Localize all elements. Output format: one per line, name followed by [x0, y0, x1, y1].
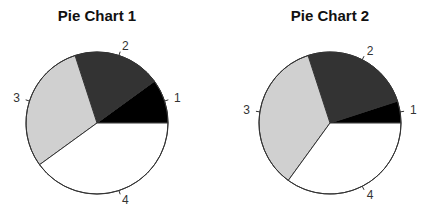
slice-label: 1: [410, 103, 417, 117]
pie-plot-area: 12341234: [0, 0, 429, 220]
label-tick: [26, 100, 30, 101]
label-tick: [165, 100, 169, 101]
label-tick: [119, 52, 120, 56]
pie-1-slices: 1234: [13, 39, 181, 207]
slice-label: 2: [122, 39, 129, 53]
label-tick: [119, 191, 120, 195]
label-tick: [362, 56, 364, 60]
slice-label: 2: [367, 44, 374, 58]
label-tick: [400, 111, 404, 112]
slice-label: 3: [243, 103, 250, 117]
slice-label: 3: [13, 91, 20, 105]
slice-label: 4: [122, 193, 129, 207]
pie-2-slices: 1234: [243, 44, 417, 202]
slice-label: 4: [367, 188, 374, 202]
label-tick: [362, 186, 364, 190]
label-tick: [256, 111, 260, 112]
slice-label: 1: [174, 91, 181, 105]
